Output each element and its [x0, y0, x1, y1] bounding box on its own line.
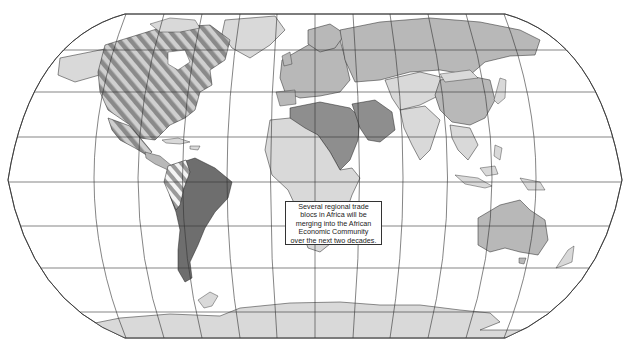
callout-line-5: over the next two decades.: [288, 237, 379, 245]
world-map: [0, 0, 632, 345]
callout-box: Several regional trade blocs in Africa w…: [285, 201, 382, 245]
